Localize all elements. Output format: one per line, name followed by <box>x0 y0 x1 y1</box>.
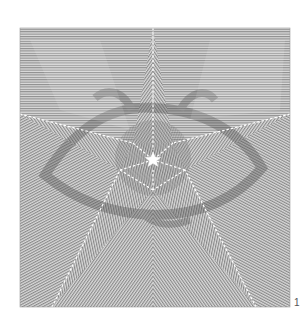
line-illusion-figure: 1 <box>0 0 308 329</box>
pattern-field <box>20 28 290 307</box>
star-line-pattern <box>0 0 308 329</box>
figure-number-label: 1 <box>294 298 300 308</box>
